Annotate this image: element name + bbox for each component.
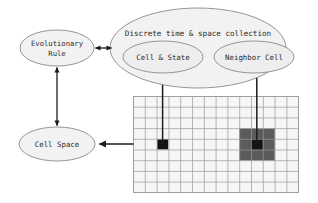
cell-grid[interactable] xyxy=(134,97,299,193)
node-cell-space[interactable]: Cell Space xyxy=(19,127,95,161)
diagram-svg: Discrete time & space collection Cell & … xyxy=(0,0,318,203)
node-neighbor-cell[interactable]: Neighbor Cell xyxy=(214,41,294,73)
node-cell-and-state[interactable]: Cell & State xyxy=(123,41,203,73)
cell-space-label: Cell Space xyxy=(35,140,80,149)
evolutionary-rule-label-line2: Rule xyxy=(48,49,65,58)
cell-and-state-label: Cell & State xyxy=(136,53,190,62)
node-evolutionary-rule[interactable]: Evolutionary Rule xyxy=(20,30,94,66)
discrete-collection-label: Discrete time & space collection xyxy=(125,29,271,38)
neighbor-cell-label: Neighbor Cell xyxy=(225,53,283,62)
evolutionary-rule-label-line1: Evolutionary xyxy=(31,39,84,48)
diagram-canvas: Discrete time & space collection Cell & … xyxy=(0,0,318,203)
evolutionary-rule-shape xyxy=(20,30,94,66)
